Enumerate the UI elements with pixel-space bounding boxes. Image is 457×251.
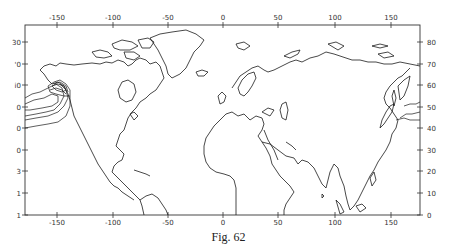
y-tick-label: 40 [427,125,436,133]
y-tick-label: 30 [427,147,436,155]
british-isles [218,92,226,104]
iceland [196,70,208,76]
map-figure: -150-100-50050100150 -150-100-5005010015… [0,0,457,251]
map-frame [25,25,420,215]
north-america-coast [40,58,164,215]
contour-nw-pacific [404,102,420,106]
contour-lines [25,80,420,128]
east-asia-coast [350,68,410,210]
borneo [356,204,366,212]
y-tick-label: 3 [17,168,21,176]
y-tick-label: 0 [17,104,21,112]
caspian-sea [280,102,288,120]
x-tick-label: 150 [384,14,397,22]
x-tick-label: 100 [328,219,341,227]
y-tick-label: 0 [17,147,21,155]
x-tick-label: 0 [221,14,225,22]
x-tick-label: -150 [49,219,65,227]
x-tick-label: 50 [274,219,283,227]
x-tick-label: 100 [328,14,341,22]
south-america-coast [140,194,168,215]
y-tick-label: 20 [427,168,436,176]
figure-caption: Fig. 62 [0,230,457,245]
caribbean-islands [134,170,150,176]
y-tick-label: 30 [12,39,21,47]
y-tick-label: 1 [17,212,21,220]
x-tick-label: -100 [105,14,121,22]
europe-africa-coast [220,112,294,215]
greenland [150,30,204,78]
novaya-zemlya [284,50,300,58]
japan [380,104,394,128]
great-lakes [130,112,138,120]
y-axis-right-labels: 80706050403020100 [427,39,436,220]
x-tick-label: 150 [384,219,397,227]
y-tick-label: 0 [427,212,431,220]
y-axis-left-labels: 30'0i0000311 [12,39,21,220]
arctic-islands [92,50,112,58]
black-sea [262,108,274,116]
y-tick-label: 1 [17,190,21,198]
y-tick-label: 60 [427,82,436,90]
y-tick-label: 70 [427,61,436,69]
y-tick-label: i0 [15,82,21,90]
x-tick-label: -150 [49,14,65,22]
x-tick-label: -50 [162,219,173,227]
sumatra [336,200,344,214]
x-tick-label: 0 [221,219,225,227]
y-tick-label: 50 [427,104,436,112]
africa-west-coast [204,120,236,215]
x-tick-label: -50 [162,14,173,22]
red-sea [264,130,278,160]
y-tick-label: 10 [427,190,436,198]
x-tick-label: -100 [105,219,121,227]
svalbard [236,42,250,50]
y-tick-label: 80 [427,39,436,47]
world-map: -150-100-50050100150 -150-100-5005010015… [0,0,457,251]
x-tick-label: 50 [274,14,283,22]
coastlines [40,30,420,215]
y-tick-label: '0 [15,61,21,69]
y-tick-label: 0 [17,125,21,133]
x-axis-top-labels: -150-100-50050100150 [49,14,398,22]
x-axis-bottom-labels: -150-100-50050100150 [49,219,398,227]
eurasia-north-coast [232,52,420,88]
kamchatka [398,76,410,100]
persian-gulf [286,142,296,150]
hudson-bay [118,80,136,102]
